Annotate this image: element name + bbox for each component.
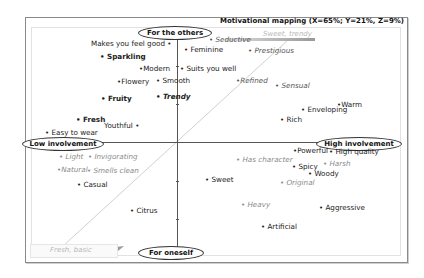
term-sweet: • Sweet [205,175,234,185]
term-makes-you-feel-good: Makes you feel good • [91,39,171,49]
axis-tick [176,219,179,220]
term-natural: •Natural [57,165,88,175]
term-light: • Light [59,152,83,162]
sweet-trendy-label: Sweet, trendy [263,30,312,38]
chart-title: Motivational mapping (X=65%; Y=21%, Z=9%… [220,17,404,25]
term-sparkling: • Sparkling [100,52,146,62]
term-sensual: • Sensual [275,81,310,91]
term-prestigious: • Prestigious [248,46,294,56]
term-artificial: • Artificial [261,222,297,232]
term-enveloping: • Enveloping [301,105,347,115]
term-seductive: • Seductive [209,35,251,45]
term-easy-to-wear: • Easy to wear [45,128,98,138]
term-harsh: • Harsh [323,159,351,169]
term-rich: • Rich [280,115,302,125]
term-trendy: • Trendy [156,92,190,102]
axis-label-left: Low involvement [22,137,104,151]
term-smooth: • Smooth [156,76,190,86]
term-original: • Original [280,178,315,188]
term-modern: •Modern [139,64,170,74]
vertical-axis [177,27,178,255]
term-casual: • Casual [77,180,108,190]
term-has-character: • Has character [236,155,293,165]
term-flowery: •Flowery [117,77,149,87]
term-aggressive: • Aggressive [319,203,365,213]
term-heavy: • Heavy [241,200,270,210]
term-fresh: • Fresh [76,115,105,125]
axis-label-bottom: For oneself [138,246,204,260]
axis-tick [176,104,179,105]
term-refined: •Refined [236,76,268,86]
term-smells-clean: • Smells clean [87,166,139,176]
term-suits-you-well: • Suits you well [180,64,236,74]
axis-label-top: For the others [138,26,212,40]
term-feminine: • Feminine [184,45,223,55]
axis-tick [176,66,179,67]
term-fruity: • Fruity [101,94,132,104]
fresh-basic-label: Fresh, basic [50,246,92,254]
axis-tick [176,181,179,182]
term-powerful: •Powerful [293,146,328,156]
term-invigorating: • Invigorating [88,152,138,162]
term-youthful: Youthful • [104,121,139,131]
term-high-quality: • High quality [329,147,379,157]
term-citrus: • Citrus [130,206,158,216]
